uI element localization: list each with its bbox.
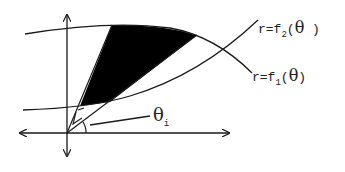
- angle-leader: [90, 116, 150, 125]
- label-f2: r=f2(θ ): [258, 18, 320, 40]
- angle-arc: [83, 122, 86, 133]
- label-f1: r=f1(θ): [252, 66, 306, 88]
- label-theta-i: θi: [153, 104, 169, 129]
